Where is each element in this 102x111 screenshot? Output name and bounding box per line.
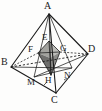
- vertex-label-F: F: [28, 45, 33, 54]
- vertex-label-E: E: [42, 33, 48, 42]
- vertex-label-A: A: [44, 1, 51, 11]
- vertex-label-D: D: [88, 44, 95, 54]
- vertex-label-H: H: [45, 76, 52, 85]
- edge-C-D: [56, 54, 88, 93]
- vertex-label-M: M: [27, 78, 35, 87]
- vertex-label-C: C: [51, 95, 58, 105]
- vertex-label-N: N: [64, 71, 71, 80]
- vertex-label-B: B: [1, 57, 8, 67]
- line-B-N: [11, 67, 72, 68]
- vertex-label-G: G: [60, 44, 67, 53]
- geometry-figure: A B C D E F G H M N: [0, 0, 102, 111]
